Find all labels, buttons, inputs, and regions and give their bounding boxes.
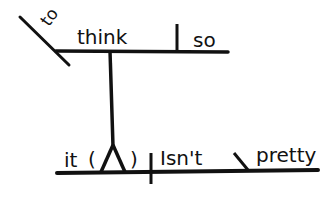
stem-line bbox=[110, 51, 113, 146]
paren-right: ) bbox=[130, 149, 138, 169]
bottom-baseline bbox=[57, 170, 318, 173]
word-pretty: pretty bbox=[256, 145, 316, 165]
fork-right-line bbox=[113, 145, 125, 172]
word-it: it bbox=[64, 150, 77, 170]
fork-left-line bbox=[101, 145, 113, 172]
word-isnt: Isn't bbox=[160, 148, 202, 168]
word-so: so bbox=[193, 30, 216, 50]
word-think: think bbox=[77, 27, 127, 47]
complement-slant-line bbox=[234, 153, 248, 170]
sentence-diagram: to think so it ( ) Isn't pretty bbox=[0, 0, 336, 199]
paren-left: ( bbox=[88, 149, 96, 169]
